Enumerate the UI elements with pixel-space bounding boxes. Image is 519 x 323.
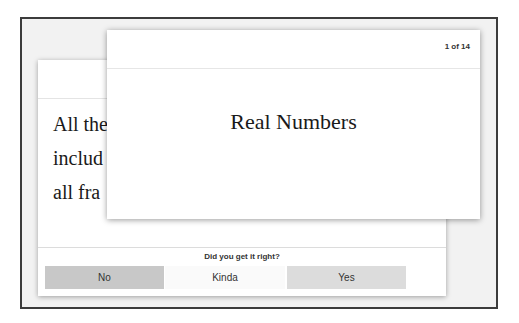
no-button[interactable]: No bbox=[45, 266, 164, 289]
yes-button[interactable]: Yes bbox=[287, 266, 406, 289]
definition-line: includ bbox=[53, 141, 108, 175]
divider bbox=[38, 247, 446, 248]
definition-text: All the includ all fra bbox=[53, 107, 108, 209]
card-term: Real Numbers bbox=[107, 109, 480, 135]
kinda-button[interactable]: Kinda bbox=[165, 266, 285, 289]
divider bbox=[107, 68, 480, 69]
definition-line: all fra bbox=[53, 175, 108, 209]
definition-line: All the bbox=[53, 107, 108, 141]
self-assessment-prompt: Did you get it right? bbox=[38, 252, 446, 261]
card-counter: 1 of 14 bbox=[445, 42, 470, 51]
flashcard-front[interactable]: 1 of 14 Real Numbers bbox=[107, 30, 480, 219]
